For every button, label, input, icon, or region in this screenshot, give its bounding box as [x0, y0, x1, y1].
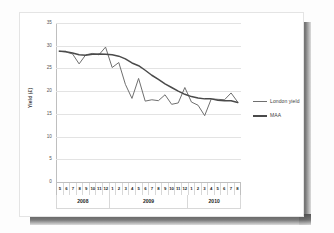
x-axis-tick-label: 10 — [169, 183, 176, 195]
x-axis-tick-label: 4 — [129, 183, 136, 195]
x-axis-tick-label: 8 — [235, 183, 242, 195]
x-axis-tick-label: 12 — [182, 183, 189, 195]
x-axis-group-label: 2010 — [188, 195, 241, 209]
legend-label: London yield — [270, 99, 300, 104]
x-axis-tick-label: 7 — [228, 183, 235, 195]
x-axis-tick-label: 6 — [221, 183, 228, 195]
legend-item: London yield — [253, 99, 313, 104]
x-axis-tick-label: 3 — [202, 183, 209, 195]
x-axis-tick-label: 3 — [123, 183, 130, 195]
x-axis-tick-label: 1 — [110, 183, 117, 195]
x-axis-tick-label: 4 — [208, 183, 215, 195]
x-axis-tick-label: 5 — [136, 183, 143, 195]
chart-legend: London yieldMAA — [253, 99, 313, 127]
y-axis-tick-label: 10 — [47, 134, 52, 139]
legend-line-icon — [253, 115, 267, 117]
x-axis-group-label: 2009 — [110, 195, 189, 209]
y-axis-tick-label: 30 — [47, 43, 52, 48]
x-axis-group-label: 2008 — [56, 195, 110, 209]
x-axis-tick-label: 7 — [70, 183, 77, 195]
screenshot-root: Yield (£) 35302520151050 567891011121234… — [0, 0, 334, 233]
y-axis-tick-label: 25 — [47, 66, 52, 71]
x-axis-tick-label: 12 — [103, 183, 110, 195]
x-axis-tick-label: 11 — [175, 183, 182, 195]
y-axis-tick-label: 35 — [47, 21, 52, 26]
x-axis-tick-label: 8 — [77, 183, 84, 195]
legend-label: MAA — [270, 113, 281, 118]
y-axis-tick-label: 15 — [47, 112, 52, 117]
x-axis-tick-label: 2 — [195, 183, 202, 195]
plot-area: 35302520151050 — [56, 23, 241, 182]
x-axis-tick-labels: 5678910111212345678910111212345678 — [56, 182, 241, 195]
y-axis-title: Yield (£) — [28, 88, 33, 108]
x-axis-tick-label: 11 — [96, 183, 103, 195]
x-axis-tick-label: 1 — [189, 183, 196, 195]
legend-line-icon — [253, 101, 267, 102]
x-axis-tick-label: 2 — [116, 183, 123, 195]
x-axis-tick-label: 9 — [162, 183, 169, 195]
x-axis-tick-label: 10 — [90, 183, 97, 195]
series-lines — [56, 23, 241, 182]
x-axis: 5678910111212345678910111212345678 20082… — [56, 182, 241, 209]
x-axis-group-labels: 200820092010 — [56, 195, 241, 209]
legend-item: MAA — [253, 113, 313, 118]
x-axis-tick-label: 8 — [156, 183, 163, 195]
series-line-maa — [59, 51, 237, 102]
x-axis-tick-label: 5 — [56, 183, 64, 195]
chart-figure: Yield (£) 35302520151050 567891011121234… — [20, 13, 303, 216]
x-axis-tick-label: 6 — [143, 183, 150, 195]
series-line-london-yield — [59, 47, 237, 116]
y-axis-tick-label: 20 — [47, 89, 52, 94]
x-axis-tick-label: 5 — [215, 183, 222, 195]
y-axis-tick-label: 0 — [49, 180, 52, 185]
x-axis-tick-label: 6 — [64, 183, 71, 195]
x-axis-tick-label: 9 — [83, 183, 90, 195]
chart-page-card: Yield (£) 35302520151050 567891011121234… — [19, 12, 304, 217]
x-axis-tick-label: 7 — [149, 183, 156, 195]
y-axis-tick-label: 5 — [49, 157, 52, 162]
